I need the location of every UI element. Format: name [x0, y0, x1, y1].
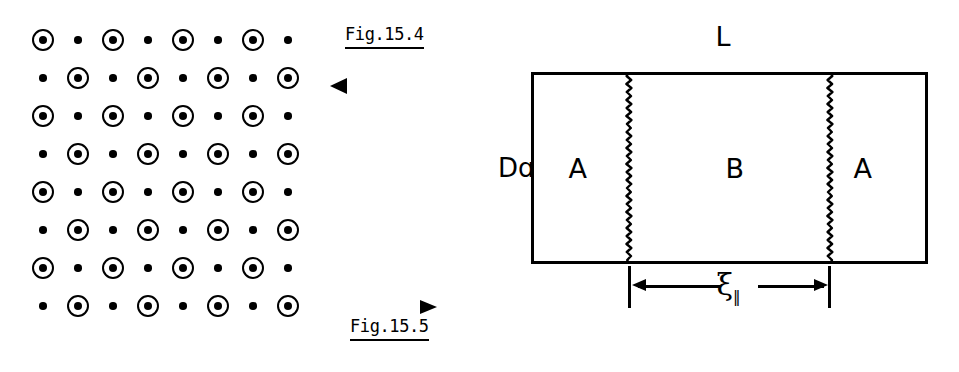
site-dot-icon	[144, 264, 152, 272]
arrow-left-icon	[330, 78, 347, 94]
site-core-icon	[214, 150, 222, 158]
correlation-length-dimension: ξ‖	[480, 262, 959, 332]
site-core-icon	[74, 150, 82, 158]
region-label-a-left: A	[569, 153, 588, 184]
wavy-interface-left	[622, 72, 636, 264]
site-core-icon	[284, 74, 292, 82]
region-label-a-right: A	[854, 153, 873, 184]
site-core-icon	[109, 36, 117, 44]
figure-caption-15-4: Fig.15.4	[345, 24, 424, 49]
site-core-icon	[179, 264, 187, 272]
site-core-icon	[109, 112, 117, 120]
dimension-arrowhead-left	[632, 279, 646, 291]
site-core-icon	[179, 188, 187, 196]
site-core-icon	[144, 74, 152, 82]
thickness-label-da: Dɑ	[498, 153, 535, 183]
site-core-icon	[144, 226, 152, 234]
site-dot-icon	[74, 36, 82, 44]
site-dot-icon	[39, 74, 47, 82]
site-dot-icon	[179, 302, 187, 310]
site-dot-icon	[74, 112, 82, 120]
site-core-icon	[39, 188, 47, 196]
site-dot-icon	[39, 150, 47, 158]
dimension-symbol-base: ξ	[716, 267, 733, 302]
wavy-interface-right	[823, 72, 837, 264]
site-dot-icon	[39, 226, 47, 234]
site-core-icon	[249, 188, 257, 196]
site-core-icon	[214, 74, 222, 82]
site-dot-icon	[284, 36, 292, 44]
site-core-icon	[39, 264, 47, 272]
site-core-icon	[249, 36, 257, 44]
arrow-right-icon	[420, 300, 437, 314]
site-dot-icon	[179, 74, 187, 82]
site-core-icon	[39, 112, 47, 120]
site-core-icon	[144, 302, 152, 310]
site-core-icon	[249, 112, 257, 120]
site-core-icon	[74, 302, 82, 310]
site-dot-icon	[214, 112, 222, 120]
site-dot-icon	[284, 188, 292, 196]
site-dot-icon	[214, 36, 222, 44]
site-dot-icon	[214, 188, 222, 196]
site-dot-icon	[144, 36, 152, 44]
wavy-line-icon	[823, 72, 837, 264]
site-dot-icon	[179, 226, 187, 234]
site-dot-icon	[109, 226, 117, 234]
site-core-icon	[144, 150, 152, 158]
dimension-line-left	[638, 285, 720, 288]
site-core-icon	[284, 150, 292, 158]
site-dot-icon	[249, 302, 257, 310]
site-dot-icon	[284, 112, 292, 120]
site-core-icon	[109, 264, 117, 272]
dimension-symbol-xi-parallel: ξ‖	[716, 267, 739, 306]
dimension-arrowhead-right	[814, 279, 828, 291]
site-core-icon	[284, 226, 292, 234]
site-dot-icon	[249, 74, 257, 82]
length-label-L: L	[715, 21, 730, 52]
site-dot-icon	[249, 226, 257, 234]
site-core-icon	[109, 188, 117, 196]
site-dot-icon	[284, 264, 292, 272]
lattice-figure: Fig.15.4 Fig.15.5	[0, 0, 480, 372]
site-dot-icon	[179, 150, 187, 158]
dimension-tick-right	[828, 266, 831, 308]
region-label-b: B	[725, 153, 744, 184]
figure-caption-15-5: Fig.15.5	[350, 316, 429, 341]
dimension-tick-left	[628, 266, 631, 308]
site-core-icon	[214, 226, 222, 234]
figure-sheet: Fig.15.4 Fig.15.5 L Dɑ A B A	[0, 0, 959, 372]
wavy-line-icon	[622, 72, 636, 264]
block-domain-figure: L Dɑ A B A ξ‖	[480, 0, 959, 372]
dimension-symbol-subscript: ‖	[733, 288, 740, 306]
site-dot-icon	[144, 112, 152, 120]
site-dot-icon	[74, 264, 82, 272]
site-dot-icon	[109, 74, 117, 82]
site-dot-icon	[249, 150, 257, 158]
site-core-icon	[284, 302, 292, 310]
site-core-icon	[39, 36, 47, 44]
site-core-icon	[74, 74, 82, 82]
site-core-icon	[249, 264, 257, 272]
site-dot-icon	[39, 302, 47, 310]
site-dot-icon	[214, 264, 222, 272]
site-dot-icon	[109, 302, 117, 310]
site-dot-icon	[109, 150, 117, 158]
site-dot-icon	[74, 188, 82, 196]
site-dot-icon	[144, 188, 152, 196]
site-core-icon	[179, 112, 187, 120]
site-core-icon	[74, 226, 82, 234]
site-core-icon	[179, 36, 187, 44]
site-core-icon	[214, 302, 222, 310]
